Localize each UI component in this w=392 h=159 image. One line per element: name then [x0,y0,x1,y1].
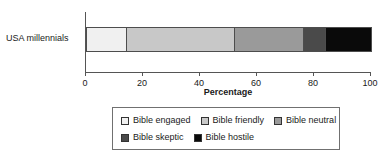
x-axis-line [85,72,371,73]
legend-swatch-icon [194,134,202,142]
legend-label: Bible friendly [213,115,265,126]
legend-item-bible-neutral[interactable]: Bible neutral [274,115,336,126]
legend-label: Bible neutral [286,115,336,126]
stacked-bar-usa-millennials [86,27,372,52]
x-tick-0 [85,72,86,76]
plot-area: 020406080100 [85,12,370,72]
legend-item-bible-skeptic[interactable]: Bible skeptic [121,132,184,143]
legend-swatch-icon [201,117,209,125]
legend-swatch-icon [274,117,282,125]
bar-segment-bible-skeptic [303,27,327,52]
legend-row: Bible engagedBible friendlyBible neutral [121,112,339,129]
legend-item-bible-engaged[interactable]: Bible engaged [121,115,191,126]
legend-label: Bible skeptic [133,132,184,143]
x-tick-60 [256,72,257,76]
legend-label: Bible hostile [206,132,255,143]
legend-item-bible-friendly[interactable]: Bible friendly [201,115,265,126]
bar-segment-bible-neutral [234,27,303,52]
legend-row: Bible skepticBible hostile [121,129,339,146]
legend-label: Bible engaged [133,115,191,126]
x-axis-title: Percentage [85,87,371,97]
x-tick-40 [199,72,200,76]
legend-swatch-icon [121,134,129,142]
x-tick-100 [370,72,371,76]
x-tick-80 [313,72,314,76]
bar-segment-bible-friendly [126,27,235,52]
legend-item-bible-hostile[interactable]: Bible hostile [194,132,255,143]
category-label-usa-millennials: USA millennials [6,33,80,44]
legend-swatch-icon [121,117,129,125]
bar-segment-bible-hostile [325,27,372,52]
chart-legend: Bible engagedBible friendlyBible neutral… [112,107,340,150]
x-tick-20 [142,72,143,76]
stacked-bar-chart: USA millennials 020406080100 Percentage … [0,0,392,159]
bar-segment-bible-engaged [86,27,127,52]
